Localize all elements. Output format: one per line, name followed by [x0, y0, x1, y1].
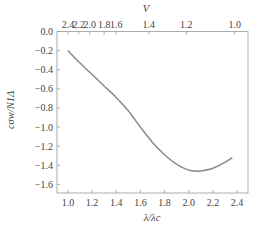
- y-tick-label: −1.4: [35, 160, 53, 171]
- y-tick-label: −0.2: [35, 45, 53, 56]
- top-axis-title: V: [143, 3, 151, 14]
- y-tick-label: −1.0: [35, 122, 53, 133]
- x-tick-label: 1.4: [110, 197, 123, 208]
- y-tick-label: −1.6: [35, 179, 53, 190]
- top-tick-label: 1.8: [98, 19, 111, 30]
- x-tick-label: 1.8: [158, 197, 171, 208]
- y-axis-title: cσw/N1Δ: [5, 91, 16, 129]
- y-tick-label: −0.4: [35, 64, 53, 75]
- top-tick-label: 1.4: [143, 19, 156, 30]
- y-axis-ticks: 0.0−0.2−0.4−0.6−0.8−1.0−1.2−1.4−1.6: [35, 26, 60, 190]
- x-axis-title: λ/λc: [143, 212, 161, 223]
- top-tick-label: 1.6: [110, 19, 123, 30]
- y-tick-label: −1.2: [35, 141, 53, 152]
- line-chart: 1.01.21.41.61.82.02.22.4 0.0−0.2−0.4−0.6…: [0, 0, 259, 233]
- x-tick-label: 2.2: [207, 197, 220, 208]
- x-tick-label: 2.4: [231, 197, 244, 208]
- y-tick-label: 0.0: [41, 26, 54, 37]
- x-tick-label: 1.2: [86, 197, 99, 208]
- top-tick-label: 1.0: [228, 19, 241, 30]
- data-line: [68, 51, 232, 172]
- top-tick-label: 1.2: [180, 19, 193, 30]
- x-tick-label: 1.6: [134, 197, 147, 208]
- x-tick-label: 2.0: [183, 197, 196, 208]
- plot-frame: [57, 32, 248, 194]
- top-tick-label: 2.0: [83, 19, 96, 30]
- y-tick-label: −0.8: [35, 102, 53, 113]
- y-tick-label: −0.6: [35, 83, 53, 94]
- x-tick-label: 1.0: [62, 197, 75, 208]
- top-axis-ticks: 2.42.22.01.81.61.41.21.0: [62, 19, 241, 35]
